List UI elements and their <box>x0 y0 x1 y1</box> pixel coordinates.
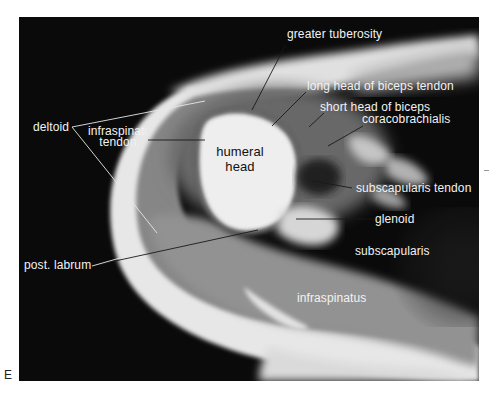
label-coracobrachialis: coracobrachialis <box>362 113 450 126</box>
label-greater-tuberosity: greater tuberosity <box>287 28 382 41</box>
label-infraspinatus-tendon: infraspinatus tendon <box>88 126 148 148</box>
mri-figure: greater tuberosity long head of biceps t… <box>0 0 496 394</box>
label-subscapularis-tendon: subscapularis tendon <box>356 182 471 195</box>
label-long-head-biceps-tendon: long head of biceps tendon <box>307 80 454 93</box>
label-humeral-head: humeral head <box>215 144 265 174</box>
label-subscapularis: subscapularis <box>355 245 430 258</box>
label-humeral-head-line1: humeral <box>215 144 265 159</box>
edge-tick-mark <box>484 170 489 171</box>
label-infraspinatus-tendon-line2: tendon <box>88 137 148 148</box>
label-infraspinatus: infraspinatus <box>297 292 366 305</box>
label-deltoid: deltoid <box>33 121 69 134</box>
label-humeral-head-line2: head <box>215 159 265 174</box>
label-glenoid: glenoid <box>375 213 414 226</box>
mri-scan-image <box>19 17 479 381</box>
panel-letter: E <box>4 368 12 382</box>
label-post-labrum: post. labrum <box>24 259 91 272</box>
